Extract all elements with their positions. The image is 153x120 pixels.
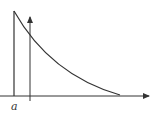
function-graph: a [0, 0, 153, 120]
label-a: a [11, 100, 18, 113]
